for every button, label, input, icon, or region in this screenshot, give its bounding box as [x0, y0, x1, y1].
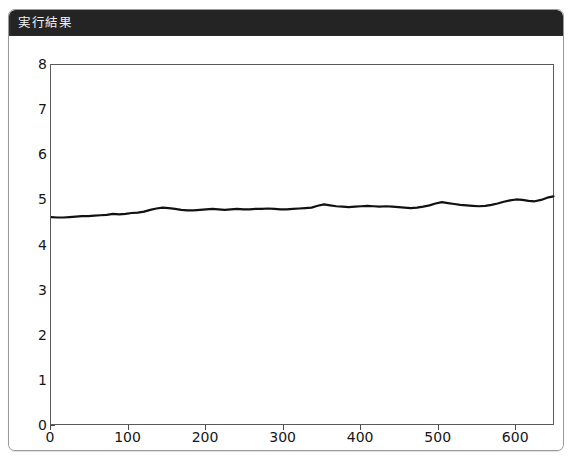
x-tick-label: 600 — [502, 430, 529, 444]
y-tick-label: 3 — [19, 283, 47, 297]
x-tick-label: 200 — [192, 430, 219, 444]
y-axis-tick-labels: 012345678 — [9, 64, 47, 425]
y-tick-label: 5 — [19, 192, 47, 206]
window-title: 実行結果 — [9, 17, 72, 30]
x-tick-label: 300 — [269, 430, 296, 444]
y-tick-label: 7 — [19, 102, 47, 116]
y-tick-label: 0 — [19, 418, 47, 432]
plot-frame — [50, 64, 554, 425]
window-title-bar: 実行結果 — [9, 10, 563, 36]
chart-canvas: 012345678 0100200300400500600 — [9, 36, 564, 451]
y-tick-label: 4 — [19, 238, 47, 252]
line-plot — [51, 65, 555, 426]
x-tick-label: 0 — [46, 430, 55, 444]
x-tick-label: 400 — [347, 430, 374, 444]
y-tick-label: 8 — [19, 57, 47, 71]
x-tick-label: 100 — [114, 430, 141, 444]
y-tick-label: 2 — [19, 328, 47, 342]
y-tick-label: 1 — [19, 373, 47, 387]
x-tick-label: 500 — [424, 430, 451, 444]
x-axis-tick-labels: 0100200300400500600 — [50, 428, 554, 450]
data-series-line — [51, 196, 553, 217]
y-tick-label: 6 — [19, 147, 47, 161]
execution-result-window: 実行結果 012345678 0100200300400500600 — [8, 9, 564, 451]
